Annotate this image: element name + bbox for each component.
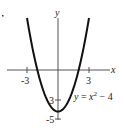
eq-equals: = [78,91,89,102]
eq-rest: − 4 [97,91,113,102]
x-tick-label-neg3: -3 [21,75,29,86]
y-tick-label-neg3: 3 [49,95,54,106]
y-axis-label: y [54,7,60,18]
parabola-graph: y x -3 3 3 -5 y = x2 − 4 [0,0,126,133]
stray-mark [2,15,4,17]
x-axis-label: x [110,64,116,75]
x-tick-label-3: 3 [86,75,91,86]
equation-label: y = x2 − 4 [73,90,113,102]
y-tick-label-neg5: -5 [46,114,54,125]
